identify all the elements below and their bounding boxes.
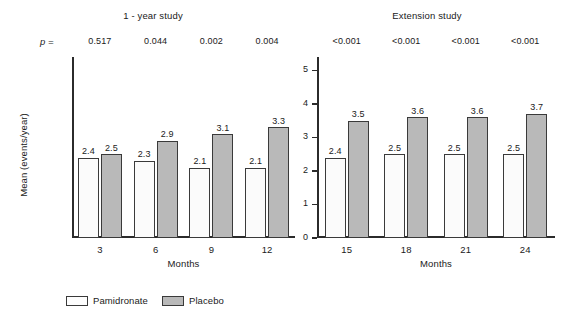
x-tick-label-12-months: 12 <box>239 244 295 255</box>
x-axis-title-right: Months <box>317 258 555 269</box>
bar-pamidronate-18m <box>384 154 405 238</box>
y-tick-label: 4 <box>292 98 308 108</box>
x-tick-label-21-months: 21 <box>436 244 496 255</box>
p-value-prefix-left: p = <box>40 36 53 47</box>
x-axis-title-left: Months <box>72 258 295 269</box>
legend-item-pamidronate: Pamidronate <box>66 295 148 306</box>
legend-item-placebo: Placebo <box>162 295 224 306</box>
bar-placebo-18m <box>407 117 428 238</box>
bar-value-label: 2.5 <box>95 143 128 153</box>
y-axis-title: Mean (events/year) <box>8 0 19 75</box>
gray-bar-swatch <box>162 296 184 306</box>
bar-pamidronate-6m <box>134 161 155 238</box>
bar-placebo-12m <box>268 127 289 238</box>
y-tick-label: 5 <box>292 64 308 74</box>
bar-placebo-21m <box>467 117 488 238</box>
bar-value-label: 3.1 <box>206 123 239 133</box>
p-value-6-months: 0.044 <box>128 36 184 46</box>
bar-placebo-9m <box>212 134 233 238</box>
y-tick-label: 1 <box>292 198 308 208</box>
bar-value-label: 3.7 <box>520 102 553 112</box>
x-tick-label-3-months: 3 <box>72 244 128 255</box>
plot-area-left: 2.42.32.12.12.52.93.13.3 <box>72 57 295 238</box>
legend-label: Placebo <box>189 295 224 306</box>
p-value-9-months: 0.002 <box>184 36 240 46</box>
bar-value-label: 2.9 <box>151 129 184 139</box>
p-value-18-months: <0.001 <box>377 36 437 46</box>
bar-placebo-24m <box>526 114 547 238</box>
bar-pamidronate-9m <box>189 168 210 238</box>
panel-title-right: Extension study <box>317 10 537 21</box>
panel-one-year-study: 1 - year study p = 0.5170.0440.0020.004 … <box>20 0 295 290</box>
p-value-21-months: <0.001 <box>436 36 496 46</box>
white-bar-swatch <box>66 296 88 306</box>
bar-placebo-15m <box>348 121 369 238</box>
y-tick-label: 0 <box>292 232 308 242</box>
bar-pamidronate-21m <box>444 154 465 238</box>
p-value-24-months: <0.001 <box>496 36 556 46</box>
x-tick-label-15-months: 15 <box>317 244 377 255</box>
bar-pamidronate-3m <box>78 158 99 238</box>
x-tick-label-9-months: 9 <box>184 244 240 255</box>
panel-title-left: 1 - year study <box>53 10 253 21</box>
bar-value-label: 3.6 <box>401 106 434 116</box>
bar-value-label: 3.6 <box>461 106 494 116</box>
plot-area-right: 012345 2.42.52.52.53.53.63.63.7 <box>317 57 555 238</box>
p-value-row-right: <0.001<0.001<0.001<0.001 <box>317 36 555 50</box>
bar-pamidronate-15m <box>325 158 346 238</box>
bar-group-container-right: 2.42.52.52.53.53.63.63.7 <box>317 57 555 238</box>
p-value-15-months: <0.001 <box>317 36 377 46</box>
y-tick-label: 3 <box>292 131 308 141</box>
panel-extension-study: Extension study <0.001<0.001<0.001<0.001… <box>297 0 561 290</box>
p-value-12-months: 0.004 <box>239 36 295 46</box>
bar-value-label: 3.3 <box>262 116 295 126</box>
bar-pamidronate-24m <box>503 154 524 238</box>
bar-value-label: 3.5 <box>342 109 375 119</box>
p-value-row-left: 0.5170.0440.0020.004 <box>72 36 295 50</box>
bar-placebo-6m <box>157 141 178 238</box>
legend-label: Pamidronate <box>93 295 148 306</box>
bar-placebo-3m <box>101 154 122 238</box>
x-tick-label-6-months: 6 <box>128 244 184 255</box>
y-tick-label: 2 <box>292 165 308 175</box>
x-tick-label-18-months: 18 <box>377 244 437 255</box>
bar-group-container-left: 2.42.32.12.12.52.93.13.3 <box>72 57 295 238</box>
legend: PamidronatePlacebo <box>66 295 224 306</box>
figure-bar-chart: Mean (events/year) 1 - year study p = 0.… <box>0 0 561 320</box>
bar-pamidronate-12m <box>245 168 266 238</box>
p-value-3-months: 0.517 <box>72 36 128 46</box>
x-tick-label-24-months: 24 <box>496 244 556 255</box>
